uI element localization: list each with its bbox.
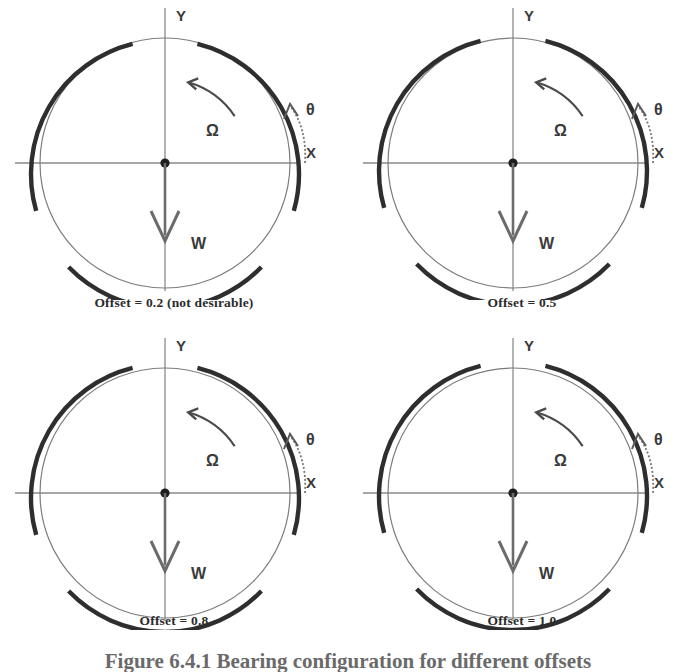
svg-text:W: W (191, 565, 207, 582)
bearing-panel-offset-0-2: WΩθXY Offset = 0.2 (not desirable) (0, 0, 348, 330)
panel-caption-offset-0-8: Offset = 0.8 (0, 613, 348, 629)
svg-text:X: X (654, 474, 664, 491)
svg-text:Y: Y (176, 7, 186, 24)
panel-caption-offset-0-2: Offset = 0.2 (not desirable) (0, 295, 348, 311)
svg-text:Ω: Ω (554, 122, 567, 139)
svg-text:Y: Y (176, 337, 186, 354)
svg-text:Ω: Ω (554, 452, 567, 469)
svg-text:θ: θ (306, 101, 315, 118)
svg-text:θ: θ (654, 101, 663, 118)
bearing-diagram-svg: WΩθXY (0, 0, 348, 300)
svg-text:Ω: Ω (206, 452, 219, 469)
bearing-panel-offset-0-8: WΩθXY Offset = 0.8 (0, 330, 348, 648)
bearing-diagram-svg: WΩθXY (348, 0, 696, 300)
panel-caption-offset-0-5: Offset = 0.5 (348, 295, 696, 311)
svg-text:Ω: Ω (206, 122, 219, 139)
figure-caption: Figure 6.4.1 Bearing configuration for d… (0, 648, 696, 672)
svg-text:Y: Y (524, 337, 534, 354)
bearing-panel-offset-1-0: WΩθXY Offset = 1.0 (348, 330, 696, 648)
svg-text:X: X (306, 144, 316, 161)
svg-text:θ: θ (306, 431, 315, 448)
svg-text:X: X (654, 144, 664, 161)
bearing-panel-offset-0-5: WΩθXY Offset = 0.5 (348, 0, 696, 330)
panel-caption-offset-1-0: Offset = 1.0 (348, 613, 696, 629)
svg-text:θ: θ (654, 431, 663, 448)
svg-text:X: X (306, 474, 316, 491)
svg-text:W: W (191, 235, 207, 252)
bearing-diagram-svg: WΩθXY (0, 330, 348, 630)
svg-text:W: W (539, 235, 555, 252)
svg-text:W: W (539, 565, 555, 582)
bearing-diagram-svg: WΩθXY (348, 330, 696, 630)
svg-text:Y: Y (524, 7, 534, 24)
bearing-configuration-figure: WΩθXY Offset = 0.2 (not desirable) WΩθXY… (0, 0, 696, 648)
